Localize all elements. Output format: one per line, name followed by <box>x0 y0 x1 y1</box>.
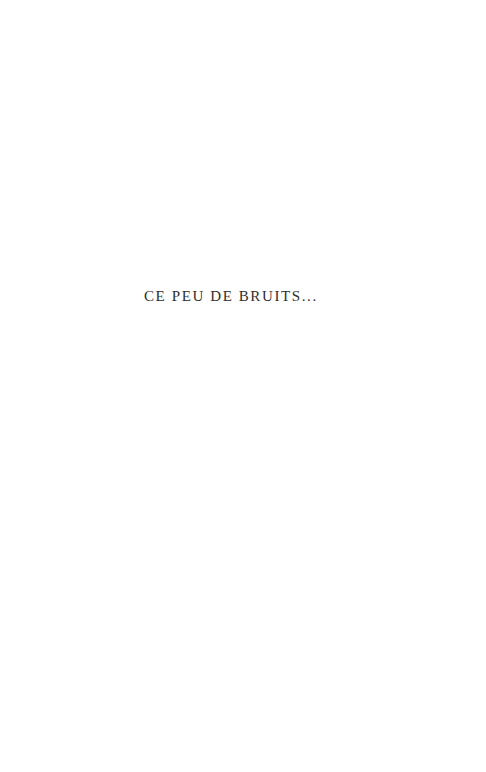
half-title: CE PEU DE BRUITS... <box>144 287 326 305</box>
book-page: CE PEU DE BRUITS... <box>0 0 486 772</box>
